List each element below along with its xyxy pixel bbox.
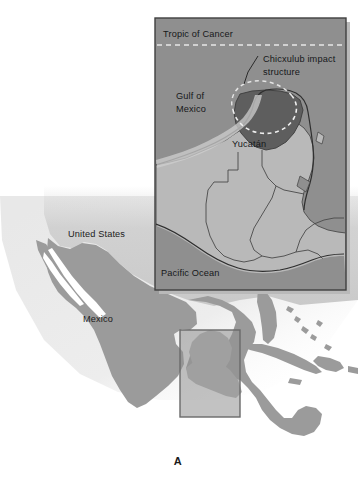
label-united-states: United States (68, 229, 125, 239)
panel-letter: A (0, 455, 358, 467)
label-mexico: Mexico (83, 314, 113, 324)
label-gulf-of-mexico-line2: Mexico (176, 104, 206, 114)
label-gulf-of-mexico-line1: Gulf of (176, 91, 204, 101)
inset-map-group: Tropic of Cancer Gulf of Mexico Chicxulu… (155, 18, 350, 294)
label-chicxulub-line2: structure (263, 67, 300, 77)
label-pacific-ocean: Pacific Ocean (161, 268, 220, 278)
label-yucatan: Yucatán (232, 139, 266, 149)
inset-locator-box[interactable] (180, 330, 240, 417)
map-canvas: United States Mexico (0, 0, 358, 494)
figure-panel-a: United States Mexico (0, 0, 358, 494)
label-chicxulub-line1: Chicxulub impact (263, 54, 336, 64)
panel-letter-text: A (174, 455, 182, 467)
label-tropic-of-cancer: Tropic of Cancer (163, 29, 233, 39)
